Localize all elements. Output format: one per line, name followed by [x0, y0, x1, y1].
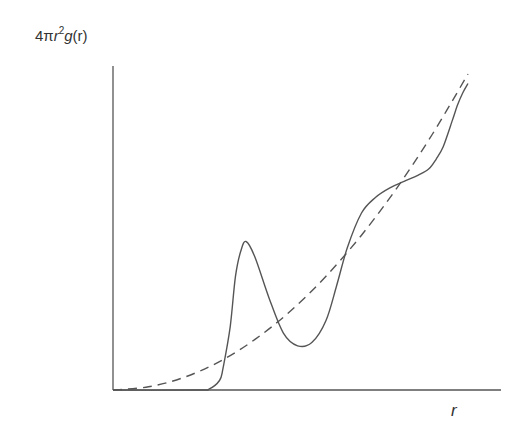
rdf-curve: [113, 84, 468, 391]
y-axis-label: 4πr2g(r): [35, 26, 88, 44]
rdf-chart: [0, 0, 524, 444]
x-axis-label: r: [451, 401, 457, 421]
